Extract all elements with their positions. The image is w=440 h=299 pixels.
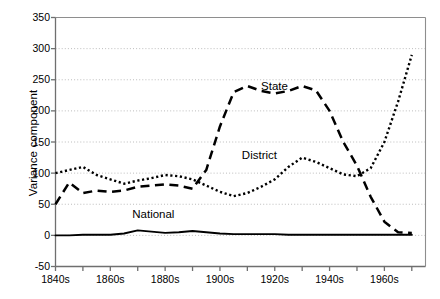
series-line-national <box>56 230 412 235</box>
plot-area <box>0 0 440 299</box>
y-axis-tick-label: 150 <box>16 137 50 147</box>
y-axis-tick-label: 250 <box>16 74 50 84</box>
x-axis-tick-label: 1900s <box>197 274 243 285</box>
x-axis-tick-label: 1940s <box>307 274 353 285</box>
x-axis-tick-label: 1960s <box>361 274 407 285</box>
y-axis-tick-label: 50 <box>16 199 50 209</box>
series-label-district: District <box>242 149 277 161</box>
y-axis-tick-label: 100 <box>16 168 50 178</box>
variance-component-chart: Variance component -50050100150200250300… <box>0 0 440 299</box>
series-label-state: State <box>261 80 288 92</box>
y-axis-tick-label: -50 <box>16 261 50 271</box>
series-line-state <box>56 86 412 233</box>
x-axis-tick-label: 1880s <box>142 274 188 285</box>
y-axis-tick-label: 0 <box>16 230 50 240</box>
x-axis-tick-label: 1860s <box>87 274 133 285</box>
y-axis-tick-label: 200 <box>16 105 50 115</box>
series-label-national: National <box>132 208 174 220</box>
x-axis-tick-label: 1920s <box>252 274 298 285</box>
y-axis-tick-label: 300 <box>16 43 50 53</box>
x-axis-tick-label: 1840s <box>33 274 79 285</box>
series-line-district <box>56 55 412 196</box>
y-axis-tick-label: 350 <box>16 12 50 22</box>
